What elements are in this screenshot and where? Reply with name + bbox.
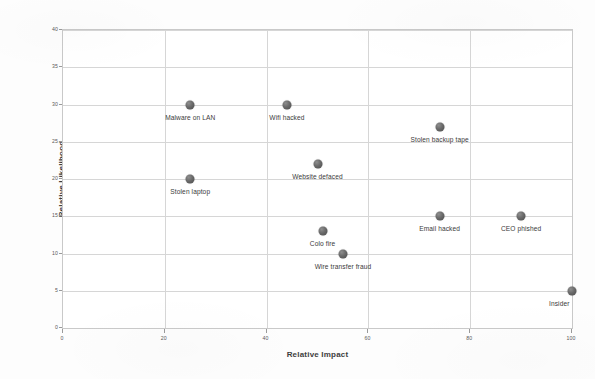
y-tick-label: 30 — [36, 101, 58, 107]
data-point[interactable] — [313, 160, 322, 169]
gridline-horizontal — [63, 142, 572, 143]
y-tick-label: 35 — [36, 63, 58, 69]
x-tick-mark — [62, 329, 63, 333]
x-tick-label: 100 — [567, 335, 576, 341]
data-point-label: Malware on LAN — [165, 114, 215, 121]
x-tick-label: 0 — [61, 335, 64, 341]
data-point[interactable] — [338, 249, 347, 258]
gridline-horizontal — [63, 254, 572, 255]
gridline-horizontal — [63, 216, 572, 217]
y-tick-label: 10 — [36, 250, 58, 256]
x-tick-label: 40 — [263, 335, 269, 341]
y-tick-label: 20 — [36, 175, 58, 181]
scatter-chart: Relative Likelihood 0510152025303540 Mal… — [0, 0, 595, 379]
data-point[interactable] — [318, 227, 327, 236]
data-point[interactable] — [568, 286, 577, 295]
x-tick-label: 80 — [466, 335, 472, 341]
gridline-horizontal — [63, 105, 572, 106]
data-point[interactable] — [186, 175, 195, 184]
y-tick-label: 40 — [36, 26, 58, 32]
data-point-label: Website defaced — [292, 173, 343, 180]
gridline-vertical — [368, 30, 369, 328]
gridline-vertical — [470, 30, 471, 328]
data-point[interactable] — [435, 122, 444, 131]
y-tick-label: 5 — [36, 287, 58, 293]
x-tick-mark — [367, 329, 368, 333]
data-point-label: Wifi hacked — [269, 114, 304, 121]
y-tick-label: 25 — [36, 138, 58, 144]
gridline-vertical — [267, 30, 268, 328]
data-point-label: Wire transfer fraud — [315, 263, 372, 270]
x-tick-mark — [266, 329, 267, 333]
gridline-horizontal — [63, 291, 572, 292]
gridline-horizontal — [63, 67, 572, 68]
x-tick-mark — [469, 329, 470, 333]
data-point[interactable] — [186, 100, 195, 109]
data-point-label: Colo fire — [310, 240, 335, 247]
y-tick-label: 15 — [36, 212, 58, 218]
x-tick-label: 60 — [364, 335, 370, 341]
data-point-label: Stolen laptop — [170, 188, 210, 195]
x-tick-mark — [571, 329, 572, 333]
gridline-horizontal — [63, 30, 572, 31]
plot-area: Malware on LANWifi hackedStolen backup t… — [62, 29, 573, 329]
data-point[interactable] — [435, 212, 444, 221]
data-point-label: Insider — [549, 300, 570, 307]
data-point[interactable] — [517, 212, 526, 221]
data-point-label: Stolen backup tape — [411, 136, 469, 143]
data-point[interactable] — [282, 100, 291, 109]
x-axis-title: Relative Impact — [62, 350, 573, 359]
x-tick-mark — [164, 329, 165, 333]
y-axis: 0510152025303540 — [32, 29, 58, 329]
x-tick-label: 20 — [161, 335, 167, 341]
y-tick-label: 0 — [36, 324, 58, 330]
x-axis: 020406080100 — [62, 329, 573, 349]
data-point-label: CEO phished — [501, 225, 541, 232]
data-point-label: Email hacked — [419, 225, 460, 232]
gridline-vertical — [165, 30, 166, 328]
